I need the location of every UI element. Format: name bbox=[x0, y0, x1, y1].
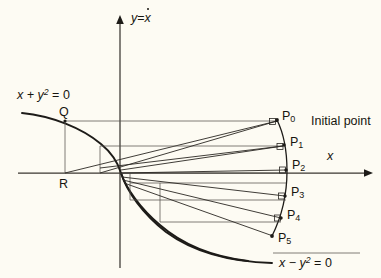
label-point-p2: P2 bbox=[292, 159, 305, 173]
dot-p0 bbox=[275, 118, 279, 122]
label-point-p5: P5 bbox=[278, 232, 291, 246]
initial-point-note: Initial point bbox=[311, 115, 371, 128]
label-point-r: R bbox=[59, 178, 68, 191]
axes-group bbox=[18, 15, 373, 268]
diagram-svg bbox=[0, 0, 381, 278]
dot-q bbox=[63, 119, 66, 122]
chords-group bbox=[100, 121, 286, 236]
lower-eq-lhs: x − y bbox=[279, 256, 306, 270]
chord-to-p3 bbox=[122, 177, 285, 196]
upper-eq-exponent: 2 bbox=[44, 87, 49, 97]
p2-sub: 2 bbox=[300, 163, 305, 173]
label-point-q: Q bbox=[59, 106, 69, 119]
lower-eq-rhs: = 0 bbox=[314, 256, 332, 270]
label-point-p0: P0 bbox=[282, 110, 295, 124]
p3-sub: 3 bbox=[299, 190, 304, 200]
chord-to-p5 bbox=[124, 183, 273, 236]
lower-eq-exponent: 2 bbox=[306, 255, 311, 265]
y-axis-label: y=x bbox=[131, 12, 151, 25]
y-axis-rhs: x bbox=[145, 11, 151, 25]
dot-p2 bbox=[284, 168, 287, 171]
chord-alt-p1 bbox=[100, 146, 283, 168]
dot-p1 bbox=[282, 143, 285, 146]
upper-eq-lhs: x + y bbox=[17, 88, 44, 102]
label-point-p3: P3 bbox=[291, 186, 304, 200]
lower-curve-equation: x − y2 = 0 bbox=[279, 256, 332, 269]
p0-sub: 0 bbox=[290, 114, 295, 124]
dot-p3 bbox=[283, 194, 286, 197]
x-axis-arrowhead bbox=[364, 169, 373, 177]
y-axis-equals: = bbox=[137, 11, 144, 25]
dot-p4 bbox=[279, 216, 282, 219]
chord-r-p0 bbox=[65, 121, 277, 173]
p5-sub: 5 bbox=[286, 236, 291, 246]
chord-to-p1 bbox=[121, 146, 283, 170]
label-point-p1: P1 bbox=[290, 136, 303, 150]
point-dots bbox=[63, 118, 287, 238]
p1-sub: 1 bbox=[298, 140, 303, 150]
upper-eq-rhs: = 0 bbox=[52, 88, 70, 102]
label-point-p4: P4 bbox=[287, 209, 300, 223]
figure-canvas: y=x x x + y2 = 0 x − y2 = 0 Q R Initial … bbox=[0, 0, 381, 278]
qr-construction bbox=[65, 120, 277, 173]
p4-sub: 4 bbox=[295, 213, 300, 223]
x-axis-label: x bbox=[327, 150, 333, 163]
upper-curve-equation: x + y2 = 0 bbox=[17, 88, 70, 101]
dot-p5 bbox=[270, 234, 274, 238]
lower-parabola-curve bbox=[121, 173, 272, 263]
y-axis-arrowhead bbox=[116, 15, 124, 24]
